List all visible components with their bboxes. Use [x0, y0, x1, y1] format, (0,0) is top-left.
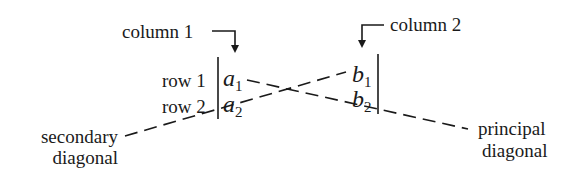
entry-b2: b2 [352, 86, 372, 115]
determinant-diagonals-diagram: column 1 column 2 row 1 row 2 a1 a2 b1 b… [0, 0, 583, 172]
column-1-label: column 1 [122, 21, 193, 42]
secondary-diagonal-label-line2: diagonal [53, 147, 118, 168]
row-1-label: row 1 [162, 70, 206, 91]
principal-diagonal-label-line2: diagonal [482, 140, 547, 161]
column-1-arrow-icon [212, 31, 239, 53]
row-2-label: row 2 [162, 96, 206, 117]
entry-a1: a1 [223, 65, 243, 94]
secondary-diagonal-label-line1: secondary [41, 126, 119, 147]
column-2-label: column 2 [390, 14, 461, 35]
principal-diagonal-label-line1: principal [478, 118, 546, 139]
column-2-arrow-icon [358, 25, 384, 48]
